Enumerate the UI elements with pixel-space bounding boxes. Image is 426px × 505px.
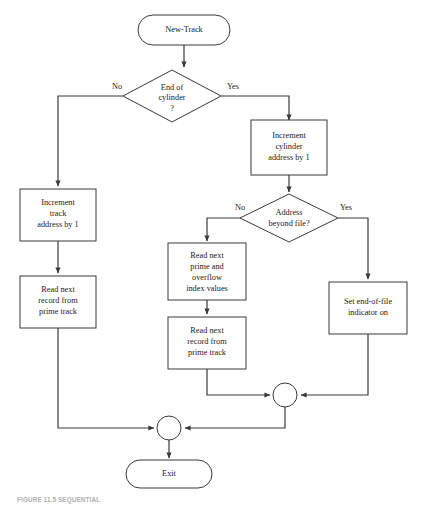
edge-address-no-to-read-index xyxy=(207,218,240,241)
edge-address-yes-to-set-eof xyxy=(338,218,368,279)
node-end-of-cylinder-label-line2: cylinder xyxy=(158,93,185,102)
branch-label-cylinder-yes: Yes xyxy=(227,82,239,91)
node-read-record-left-label-line1: Read next xyxy=(41,285,75,294)
node-set-eof-label-line2: indicator on xyxy=(348,308,389,317)
node-read-record-left-label-line2: record from xyxy=(38,296,78,305)
node-end-of-cylinder: End of cylinder ? xyxy=(123,70,221,122)
node-read-index: Read next prime and overflow index value… xyxy=(168,243,246,300)
node-increment-track: Increment track address by 1 xyxy=(20,189,96,241)
node-end-of-cylinder-label-line3: ? xyxy=(170,104,174,113)
edge-set-eof-to-junction-right xyxy=(301,334,368,395)
branch-label-address-no: No xyxy=(235,203,245,212)
node-address-beyond: Address beyond file? xyxy=(240,194,338,242)
node-junction-left xyxy=(157,416,181,440)
node-increment-cylinder: Increment cylinder address by 1 xyxy=(251,120,327,175)
node-exit: Exit xyxy=(126,460,212,488)
node-read-record-mid-label-line3: prime track xyxy=(188,348,227,357)
node-increment-cylinder-label-line2: cylinder xyxy=(275,142,302,151)
edge-cylinder-yes-to-increment-cylinder xyxy=(221,96,289,120)
node-increment-track-label-line3: address by 1 xyxy=(37,220,78,229)
node-new-track: New-Track xyxy=(138,15,230,45)
node-increment-track-label-line2: track xyxy=(50,209,67,218)
node-read-record-mid-label-line2: record from xyxy=(187,337,227,346)
node-set-eof: Set end-of-file indicator on xyxy=(329,282,407,334)
node-increment-track-label-line1: Increment xyxy=(41,198,75,207)
edge-cylinder-no-to-increment-track xyxy=(58,96,123,186)
node-read-record-mid: Read next record from prime track xyxy=(168,317,246,369)
branch-label-cylinder-no: No xyxy=(112,82,122,91)
node-read-index-label-line1: Read next xyxy=(190,251,224,260)
node-exit-label: Exit xyxy=(162,469,177,478)
node-address-beyond-label-line2: beyond file? xyxy=(268,219,310,228)
edge-read-record-mid-to-junction-right xyxy=(207,369,270,395)
node-end-of-cylinder-label-line1: End of xyxy=(161,83,184,92)
edge-read-record-left-to-junction-left xyxy=(58,328,154,428)
node-read-index-label-line4: index values xyxy=(186,284,228,293)
node-increment-cylinder-label-line1: Increment xyxy=(272,131,306,140)
edge-junction-right-to-junction-left xyxy=(185,407,285,428)
node-read-index-label-line3: overflow xyxy=(192,273,222,282)
node-increment-cylinder-label-line3: address by 1 xyxy=(268,153,309,162)
flowchart-canvas: New-Track End of cylinder ? No Yes Incre… xyxy=(0,0,426,505)
node-address-beyond-label-line1: Address xyxy=(275,208,302,217)
node-read-index-label-line2: prime and xyxy=(190,262,224,271)
node-read-record-left-label-line3: prime track xyxy=(39,307,78,316)
flowchart-figure: New-Track End of cylinder ? No Yes Incre… xyxy=(0,0,426,505)
node-read-record-mid-label-line1: Read next xyxy=(190,326,224,335)
node-read-record-left: Read next record from prime track xyxy=(20,276,96,328)
node-junction-right xyxy=(273,383,297,407)
figure-caption: FIGURE 11.5 SEQUENTIAL xyxy=(17,496,100,503)
node-new-track-label: New-Track xyxy=(165,25,203,34)
node-set-eof-label-line1: Set end-of-file xyxy=(344,297,392,306)
branch-label-address-yes: Yes xyxy=(340,203,352,212)
